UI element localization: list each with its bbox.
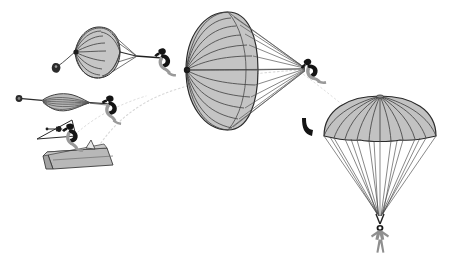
canopy: [42, 94, 90, 111]
suspension-lines: [324, 136, 436, 224]
risers-hook-icon: [302, 118, 313, 136]
stage-canopy-partially-inflated: [52, 27, 178, 78]
stage-canopy-fully-inflated-side: [184, 12, 327, 130]
suspension-lines: [90, 103, 108, 106]
skydiver-figure: [371, 225, 389, 253]
stage-canopy-steady-descent: [324, 95, 436, 253]
pilot-chute-icon: [16, 95, 42, 102]
launch-platform: [43, 140, 113, 169]
canopy: [324, 95, 436, 142]
skydiver-figure: [153, 48, 178, 77]
parachute-sequence-diagram: [0, 0, 451, 266]
stage-exit-from-platform: [37, 120, 113, 169]
illustration-canvas: [0, 0, 451, 266]
pilot-chute-icon: [52, 52, 75, 73]
